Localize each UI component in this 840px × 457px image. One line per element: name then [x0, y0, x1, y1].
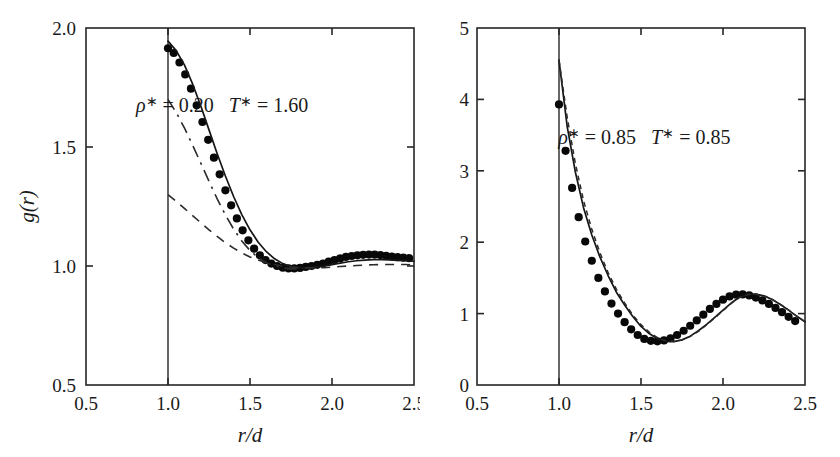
series-theory-solid-curve: [168, 41, 414, 268]
x-tick-label: 2.5: [402, 393, 420, 414]
data-point: [216, 170, 224, 178]
axis-frame: [86, 28, 414, 385]
data-point: [233, 214, 241, 222]
data-point: [555, 100, 563, 108]
figure-container: 0.51.01.52.02.50.51.01.52.0r/dg(r)ρ∗ = 0…: [0, 0, 840, 457]
x-tick-label: 2.0: [320, 393, 344, 414]
y-tick-label: 5: [460, 18, 470, 39]
data-point: [621, 318, 629, 326]
data-point: [627, 325, 635, 333]
y-tick-label: 1.5: [52, 137, 76, 158]
data-point: [244, 236, 252, 244]
x-tick-label: 1.0: [547, 393, 571, 414]
data-point: [561, 147, 569, 155]
chart-svg-right: 0.51.01.52.02.5012345r/dρ∗ = 0.85 T∗ = 0…: [420, 0, 840, 457]
y-axis-title: g(r): [15, 190, 39, 223]
y-tick-label: 4: [460, 89, 470, 110]
x-tick-label: 1.0: [156, 393, 180, 414]
chart-panel-left: 0.51.01.52.02.50.51.01.52.0r/dg(r)ρ∗ = 0…: [0, 0, 420, 457]
x-tick-label: 1.5: [629, 393, 653, 414]
data-point: [686, 322, 694, 330]
chart-panel-right: 0.51.01.52.02.5012345r/dρ∗ = 0.85 T∗ = 0…: [420, 0, 840, 457]
x-axis-title: r/d: [629, 423, 654, 447]
x-tick-label: 0.5: [74, 393, 98, 414]
data-point: [239, 226, 247, 234]
data-point: [607, 300, 615, 308]
axis-frame: [477, 28, 805, 385]
data-point: [221, 186, 229, 194]
x-tick-label: 2.0: [711, 393, 735, 414]
data-point: [706, 305, 714, 313]
y-tick-label: 2: [460, 232, 470, 253]
series-theory-solid-curve: [559, 60, 805, 341]
plot-area-right: 0.51.01.52.02.5012345r/dρ∗ = 0.85 T∗ = 0…: [460, 18, 817, 447]
data-point: [588, 257, 596, 265]
annotation-conditions: ρ∗ = 0.20 T∗ = 1.60: [135, 94, 308, 117]
data-point: [693, 316, 701, 324]
series-simulation-data-points: [164, 44, 413, 272]
y-tick-label: 1: [460, 304, 470, 325]
x-tick-label: 0.5: [465, 393, 489, 414]
data-point: [250, 245, 258, 253]
annotation-conditions: ρ∗ = 0.85 T∗ = 0.85: [557, 126, 730, 149]
y-tick-label: 3: [460, 161, 470, 182]
data-point: [227, 201, 235, 209]
chart-svg-left: 0.51.01.52.02.50.51.01.52.0r/dg(r)ρ∗ = 0…: [0, 0, 420, 457]
data-point: [699, 311, 707, 319]
x-tick-label: 2.5: [793, 393, 817, 414]
series-approximation-dashdot-curve: [168, 99, 299, 268]
y-tick-label: 0.5: [52, 375, 76, 396]
data-point: [680, 327, 688, 335]
data-point: [791, 317, 799, 325]
y-tick-label: 0: [460, 375, 470, 396]
x-tick-label: 1.5: [238, 393, 262, 414]
data-point: [614, 310, 622, 318]
y-tick-label: 1.0: [52, 256, 76, 277]
series-theory-dashed-curve: [559, 60, 805, 341]
data-point: [594, 274, 602, 282]
x-axis-title: r/d: [238, 423, 263, 447]
data-point: [568, 184, 576, 192]
data-point: [575, 213, 583, 221]
plot-area-left: 0.51.01.52.02.50.51.01.52.0r/dg(r)ρ∗ = 0…: [15, 18, 420, 447]
data-point: [581, 237, 589, 245]
data-point: [601, 287, 609, 295]
y-tick-label: 2.0: [52, 18, 76, 39]
